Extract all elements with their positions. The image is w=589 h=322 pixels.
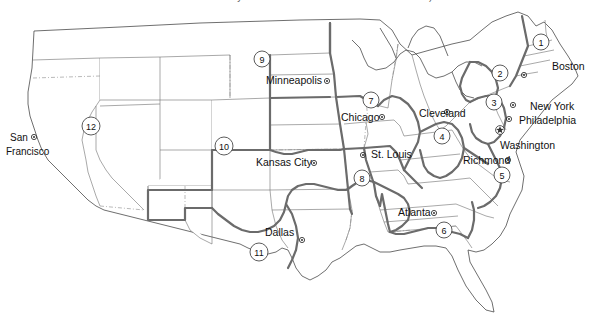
city-dot-kansas-city[interactable] [311, 160, 316, 165]
district-number-label: 5 [499, 171, 504, 181]
city-label-new-york: New York [530, 100, 575, 112]
district-number-label: 12 [86, 122, 96, 132]
city-label-san-francisco-line2: Francisco [6, 146, 50, 157]
district-number-label: 4 [439, 132, 444, 142]
city-label-san-francisco-line1: San [10, 132, 28, 143]
city-dot-new-york[interactable] [510, 102, 515, 107]
district-marker-7[interactable]: 7 [363, 92, 379, 108]
state-borders [33, 16, 554, 250]
district-marker-8[interactable]: 8 [354, 170, 370, 186]
district-number-label: 8 [359, 174, 364, 184]
city-dot-san-francisco[interactable] [31, 134, 36, 139]
district-marker-5[interactable]: 5 [494, 167, 510, 183]
city-label-kansas-city: Kansas City [256, 156, 313, 168]
district-marker-10[interactable]: 10 [215, 137, 233, 155]
star-icon[interactable] [496, 126, 505, 135]
district-marker-12[interactable]: 12 [82, 117, 100, 135]
city-dot-chicago[interactable] [379, 114, 384, 119]
district-marker-11[interactable]: 11 [250, 243, 268, 261]
city-label-minneapolis: Minneapolis [266, 74, 322, 86]
city-label-cleveland: Cleveland [419, 107, 466, 119]
district-marker-3[interactable]: 3 [486, 94, 502, 110]
district-marker-2[interactable]: 2 [492, 65, 508, 81]
city-dot-philadelphia[interactable] [506, 116, 511, 121]
district-number-label: 10 [219, 142, 229, 152]
city-label-chicago: Chicago [341, 111, 380, 123]
city-label-dallas: Dallas [265, 226, 294, 238]
district-number-label: 7 [368, 96, 373, 106]
district-number-label: 2 [497, 69, 502, 79]
city-label-philadelphia: Philadelphia [519, 114, 576, 126]
city-label-st-louis: St. Louis [371, 148, 412, 160]
city-dot-atlanta[interactable] [431, 210, 436, 215]
city-label-richmond: Richmond [463, 154, 510, 166]
map-svg: 1 2 3 4 5 6 7 8 [0, 0, 589, 322]
district-number-label: 3 [491, 98, 496, 108]
district-marker-6[interactable]: 6 [436, 222, 452, 238]
district-marker-1[interactable]: 1 [533, 34, 549, 50]
district-marker-4[interactable]: 4 [434, 128, 450, 144]
district-number-label: 6 [441, 226, 446, 236]
city-dot-dallas[interactable] [299, 237, 304, 242]
district-number-label: 1 [538, 38, 543, 48]
city-label-atlanta: Atlanta [398, 206, 431, 218]
district-number-label: 9 [259, 55, 264, 65]
city-label-boston: Boston [552, 60, 585, 72]
city-label-washington: Washington [500, 139, 555, 151]
district-marker-9[interactable]: 9 [254, 51, 270, 67]
city-dot-minneapolis[interactable] [324, 78, 329, 83]
federal-reserve-districts-map: 1 2 3 4 5 6 7 8 [0, 0, 589, 322]
district-number-label: 11 [254, 248, 263, 258]
